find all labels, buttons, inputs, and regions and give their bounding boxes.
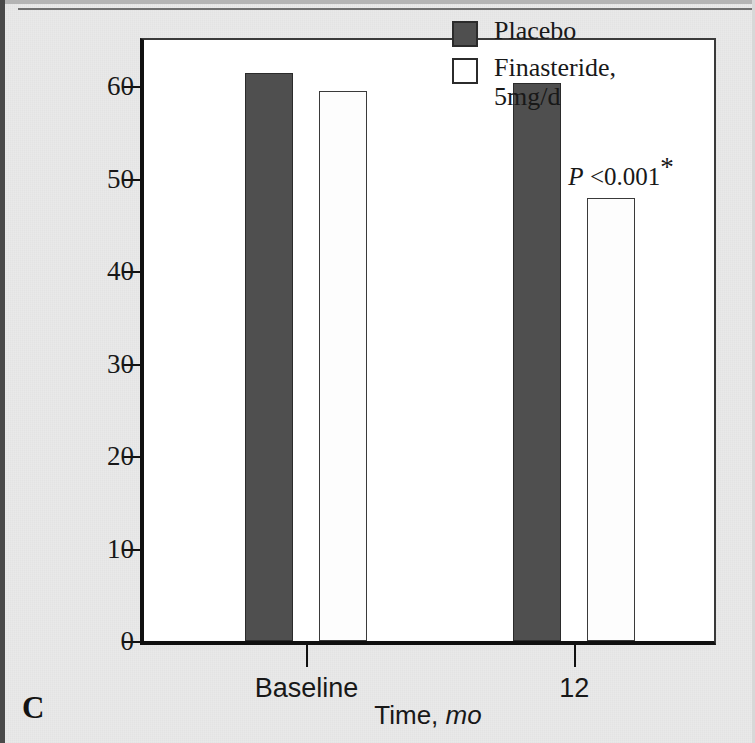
bar-placebo-12 <box>513 83 561 641</box>
legend-swatch-finasteride-icon <box>452 58 478 84</box>
x-tick-mark-baseline <box>306 645 308 667</box>
x-axis-title-unit: mo <box>446 700 482 730</box>
x-axis-title-main: Time, <box>374 700 445 730</box>
pvalue-body: <0.001 <box>584 163 661 190</box>
y-tick-label-10: 10 <box>107 535 134 562</box>
y-tick-label-40: 40 <box>107 258 134 285</box>
legend-label-placebo: Placebo <box>494 16 576 45</box>
figure-panel-c: Mean prostate volume, mL 0102030405060Ba… <box>0 0 755 743</box>
legend: Placebo Finasteride, 5mg/d <box>452 16 632 117</box>
legend-item-placebo: Placebo <box>452 16 632 47</box>
bar-finasteride-5mg-d-baseline <box>319 91 367 641</box>
y-tick-label-30: 30 <box>107 350 134 377</box>
pvalue-p: P <box>568 163 583 190</box>
figure-border-top <box>0 0 755 4</box>
y-tick-label-20: 20 <box>107 443 134 470</box>
y-tick-label-60: 60 <box>107 73 134 100</box>
pvalue-annotation: P <0.001* <box>568 163 673 191</box>
panel-letter: C <box>22 690 44 726</box>
bar-placebo-baseline <box>245 73 293 641</box>
legend-item-finasteride: Finasteride, 5mg/d <box>452 53 632 111</box>
y-tick-label-0: 0 <box>121 628 135 655</box>
y-tick-label-50: 50 <box>107 165 134 192</box>
bar-finasteride-5mg-d-12 <box>587 198 635 641</box>
legend-label-finasteride-line1: Finasteride, <box>494 53 616 82</box>
pvalue-asterisk: * <box>660 152 674 182</box>
legend-swatch-placebo-icon <box>452 21 478 47</box>
plot-area: 0102030405060Baseline12 <box>140 38 716 645</box>
figure-border-top-rule <box>18 8 755 10</box>
figure-border-left <box>0 0 5 743</box>
legend-label-finasteride-line2: 5mg/d <box>494 82 560 111</box>
x-tick-mark-12 <box>574 645 576 667</box>
legend-label-finasteride: Finasteride, 5mg/d <box>494 53 616 111</box>
x-axis-title: Time, mo <box>140 700 716 731</box>
plot-inner: 0102030405060Baseline12 <box>144 40 714 641</box>
